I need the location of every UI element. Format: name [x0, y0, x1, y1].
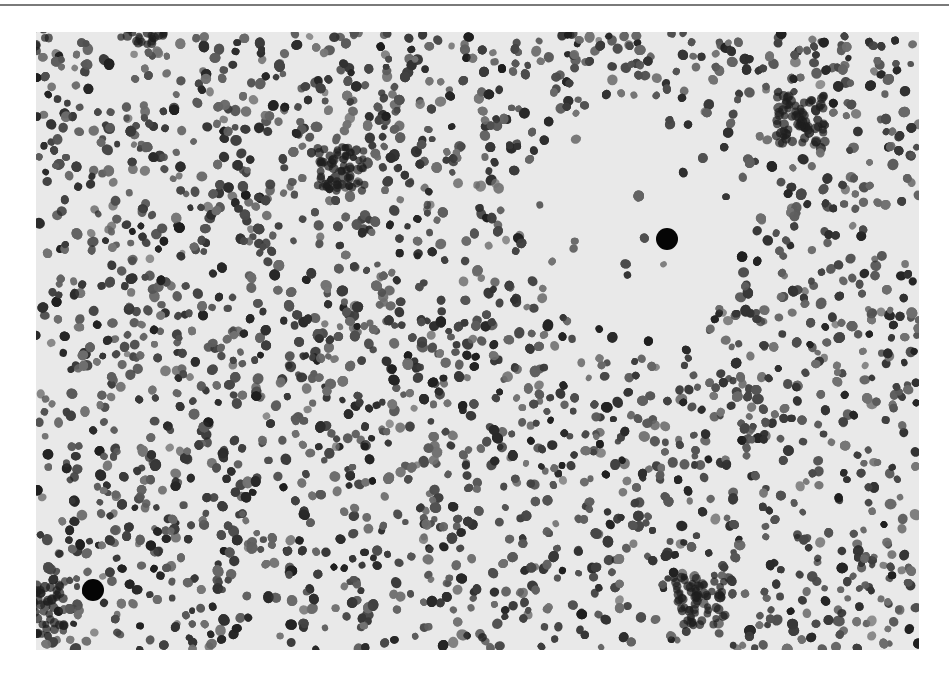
cell-nuclei-field	[36, 32, 919, 650]
marker-dot-lower-left	[82, 579, 104, 601]
top-rule	[0, 4, 949, 6]
micrograph-image	[36, 32, 919, 650]
marker-dot-upper-right	[656, 228, 678, 250]
